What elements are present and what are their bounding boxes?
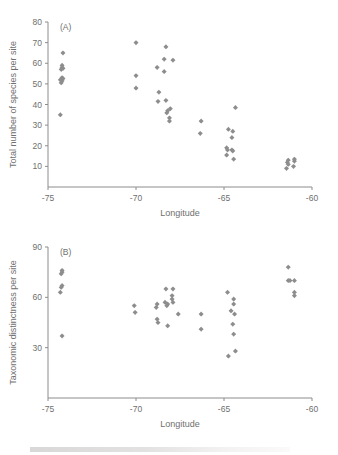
data-point (231, 157, 236, 162)
x-tick-label: -60 (306, 404, 319, 414)
data-point (292, 278, 297, 283)
data-point (170, 58, 175, 63)
data-point (226, 354, 231, 359)
y-tick-label: 30 (33, 120, 43, 130)
data-point (233, 105, 238, 110)
y-tick-label: 40 (33, 100, 43, 110)
data-point (232, 312, 237, 317)
data-point (199, 327, 204, 332)
panel-b: 306090-75-70-65-60LongitudeTaxonomic dis… (0, 230, 338, 445)
data-point (163, 98, 168, 103)
data-point (292, 293, 297, 298)
data-point (132, 303, 137, 308)
data-point (229, 308, 234, 313)
panel-a: 1020304050607080-75-70-65-60LongitudeTot… (0, 0, 338, 228)
x-tick-label: -75 (42, 404, 55, 414)
data-point (231, 302, 236, 307)
y-tick-label: 70 (33, 38, 43, 48)
x-tick-label: -70 (130, 193, 143, 203)
panel-label: (B) (60, 247, 72, 257)
data-point (199, 312, 204, 317)
data-point (170, 286, 175, 291)
y-tick-label: 90 (33, 242, 43, 252)
panel-b-plot: 306090-75-70-65-60LongitudeTaxonomic dis… (0, 230, 338, 445)
data-point (134, 86, 139, 91)
data-point (58, 290, 63, 295)
y-tick-label: 20 (33, 141, 43, 151)
data-point (231, 297, 236, 302)
data-point (134, 73, 139, 78)
data-point (199, 119, 204, 124)
y-axis-title: Taxonomic distinctness per site (8, 260, 18, 385)
data-point (156, 90, 161, 95)
data-point (165, 323, 170, 328)
data-point (176, 312, 181, 317)
data-point (133, 310, 138, 315)
data-point (155, 65, 160, 70)
x-tick-label: -65 (218, 404, 231, 414)
x-tick-label: -70 (130, 404, 143, 414)
data-point (167, 119, 172, 124)
data-point (225, 290, 230, 295)
y-tick-label: 80 (33, 17, 43, 27)
data-point (163, 286, 168, 291)
y-tick-label: 60 (33, 292, 43, 302)
data-point (226, 127, 231, 132)
data-point (230, 322, 235, 327)
x-tick-label: -75 (42, 193, 55, 203)
x-tick-label: -60 (306, 193, 319, 203)
scatter-figure: 1020304050607080-75-70-65-60LongitudeTot… (0, 0, 338, 455)
data-point (286, 265, 291, 270)
data-point-group (58, 265, 297, 359)
data-point (134, 40, 139, 45)
data-point (162, 57, 167, 62)
data-point (60, 50, 65, 55)
bottom-gray-strip (30, 447, 290, 452)
y-axis-title: Total number of species per site (8, 41, 18, 168)
x-axis-title: Longitude (160, 208, 200, 218)
data-point (229, 135, 234, 140)
data-point (224, 153, 229, 158)
data-point (162, 69, 167, 74)
x-tick-label: -65 (218, 193, 231, 203)
data-point (60, 333, 65, 338)
panel-a-plot: 1020304050607080-75-70-65-60LongitudeTot… (0, 0, 338, 228)
y-tick-label: 50 (33, 79, 43, 89)
data-point (198, 131, 203, 136)
y-tick-label: 60 (33, 58, 43, 68)
data-point (291, 164, 296, 169)
data-point-group (58, 40, 297, 171)
data-point (58, 112, 63, 117)
y-tick-label: 10 (33, 161, 43, 171)
panel-label: (A) (60, 22, 72, 32)
data-point (156, 99, 161, 104)
data-point (231, 332, 236, 337)
data-point (163, 44, 168, 49)
x-axis-title: Longitude (160, 419, 200, 429)
data-point (233, 349, 238, 354)
y-tick-label: 30 (33, 343, 43, 353)
data-point (230, 129, 235, 134)
